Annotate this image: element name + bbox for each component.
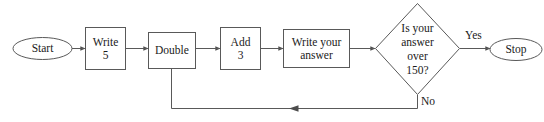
flowchart-graphics xyxy=(0,0,544,122)
node-add3-shape[interactable] xyxy=(221,28,261,70)
node-writeanswer-shape[interactable] xyxy=(284,30,350,68)
node-stop-shape[interactable] xyxy=(490,39,542,61)
node-start-shape[interactable] xyxy=(13,38,72,60)
flowchart-canvas: Start Write 5 Double Add 3 Write your an… xyxy=(0,0,544,122)
edge-decision-to-double-no xyxy=(172,69,418,109)
node-decision-shape[interactable] xyxy=(376,4,460,95)
node-double-shape[interactable] xyxy=(149,33,196,69)
node-write5-shape[interactable] xyxy=(86,28,126,70)
edge-label-no: No xyxy=(421,95,435,108)
edge-label-yes: Yes xyxy=(465,29,482,42)
edge-loop-arrowhead xyxy=(289,105,299,112)
